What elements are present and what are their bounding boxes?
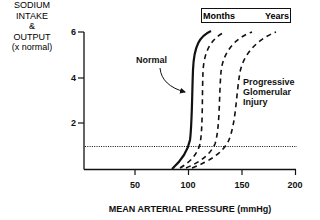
normal-label: Normal bbox=[136, 55, 167, 65]
injury-label-line-3: Injury bbox=[243, 97, 268, 107]
injury-label-line-2: Glomerular bbox=[243, 87, 291, 97]
time-from-label: Months bbox=[203, 11, 235, 21]
injury-label-line-1: Progressive bbox=[243, 77, 295, 87]
chart-plot bbox=[0, 0, 320, 220]
time-progression-box: Months Years bbox=[201, 8, 291, 23]
normal-arrow bbox=[160, 68, 185, 92]
normal-curve bbox=[172, 31, 211, 169]
time-to-label: Years bbox=[265, 11, 289, 21]
